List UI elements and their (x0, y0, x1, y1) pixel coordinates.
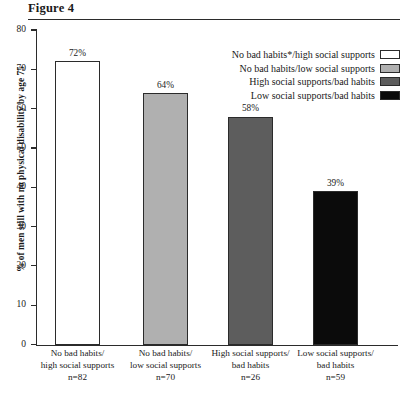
legend-item[interactable]: No bad habits*/high social supports (152, 48, 400, 62)
figure-header: Figure 4 (0, 0, 405, 22)
legend-item[interactable]: Low social supports/bad habits (152, 89, 400, 103)
legend-item-label: No bad habits/low social supports (239, 63, 375, 74)
category-line-2: bad habits (232, 360, 270, 370)
category-line-1: No bad habits/ (51, 348, 105, 358)
chart-plot-area: % of men still with no physical disabili… (0, 22, 405, 352)
y-axis-tick (31, 226, 37, 227)
category-sample-size: n=59 (291, 372, 381, 384)
category-line-2: low social supports (130, 360, 201, 370)
legend-swatch (380, 50, 400, 59)
x-axis-line (36, 345, 398, 347)
bar-value-label: 72% (55, 48, 100, 58)
x-axis-category-labels: No bad habits/high social supportsn=82No… (0, 348, 405, 388)
x-axis-category-label: No bad habits/low social supportsn=70 (121, 348, 211, 383)
y-axis-tick-label: 40 (0, 182, 26, 192)
category-line-1: No bad habits/ (139, 348, 193, 358)
y-axis-tick-label: 50 (0, 143, 26, 153)
bar[interactable] (143, 93, 188, 345)
category-line-1: High social supports/ (211, 348, 289, 358)
y-axis-tick-label: 60 (0, 104, 26, 114)
category-line-2: high social supports (41, 360, 115, 370)
legend-swatch (380, 64, 400, 73)
bar-value-label: 58% (228, 103, 273, 113)
header-divider (28, 19, 400, 20)
y-axis-line (36, 30, 37, 346)
bar[interactable] (313, 191, 358, 344)
chart-legend: No bad habits*/high social supportsNo ba… (152, 48, 400, 102)
category-sample-size: n=70 (121, 372, 211, 384)
y-axis-tick (31, 69, 37, 70)
y-axis-tick (31, 265, 37, 266)
legend-swatch (380, 77, 400, 86)
legend-swatch (380, 91, 400, 100)
figure-footnote (29, 391, 399, 401)
category-line-1: Low social supports/ (297, 348, 374, 358)
y-axis-tick-label: 10 (0, 300, 26, 310)
y-axis-tick (31, 344, 37, 345)
x-axis-category-label: No bad habits/high social supportsn=82 (33, 348, 123, 383)
bar[interactable] (55, 61, 100, 344)
category-line-2: bad habits (317, 360, 355, 370)
figure-title: Figure 4 (28, 1, 74, 16)
x-axis-category-label: High social supports/bad habitsn=26 (206, 348, 296, 383)
category-sample-size: n=26 (206, 372, 296, 384)
y-axis-tick-label: 30 (0, 222, 26, 232)
y-axis-tick (31, 147, 37, 148)
bar[interactable] (228, 117, 273, 345)
y-axis-tick (31, 187, 37, 188)
y-axis-title: % of men still with no physical disabili… (16, 44, 26, 294)
bar-value-label: 39% (313, 178, 358, 188)
legend-item-label: Low social supports/bad habits (251, 90, 375, 101)
legend-item[interactable]: High social supports/bad habits (152, 75, 400, 89)
y-axis-tick-label: 70 (0, 64, 26, 74)
x-axis-category-label: Low social supports/bad habitsn=59 (291, 348, 381, 383)
y-axis-tick (31, 29, 37, 30)
legend-item-label: No bad habits*/high social supports (232, 49, 375, 60)
legend-item[interactable]: No bad habits/low social supports (152, 62, 400, 76)
y-axis-tick (31, 305, 37, 306)
legend-item-label: High social supports/bad habits (249, 76, 375, 87)
category-sample-size: n=82 (33, 372, 123, 384)
y-axis-tick-label: 80 (0, 25, 26, 35)
y-axis-tick-label: 20 (0, 261, 26, 271)
y-axis-tick (31, 108, 37, 109)
